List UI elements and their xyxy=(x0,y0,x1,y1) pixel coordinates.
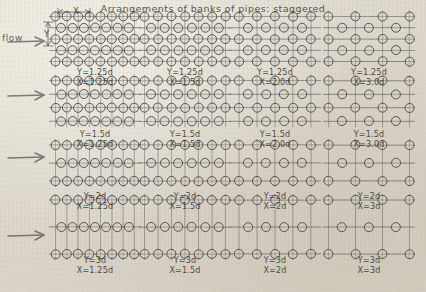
cell-x-value: X=3d xyxy=(318,202,420,212)
cell-x-value: X=1.25d xyxy=(44,202,146,212)
pipe-circle-icon xyxy=(243,90,252,99)
pipe-circle-icon xyxy=(243,46,252,55)
pipe-circle-icon xyxy=(201,158,210,167)
pipe-circle-icon xyxy=(351,177,360,186)
cell-caption: Y=1.25dX=2.0d xyxy=(224,68,326,87)
pipe-circle-icon xyxy=(214,46,223,55)
pipe-circle-icon xyxy=(124,23,133,32)
pipe-circle-icon xyxy=(51,177,60,186)
cell-y-value: Y=3d xyxy=(224,256,326,266)
pipe-circle-icon xyxy=(153,12,162,21)
pipe-circle-icon xyxy=(160,23,169,32)
pipe-circle-icon xyxy=(187,117,196,126)
pipe-circle-icon xyxy=(244,223,253,232)
pipe-circle-icon xyxy=(187,23,196,32)
pipe-circle-icon xyxy=(107,12,116,21)
pipe-circle-icon xyxy=(298,223,307,232)
pipe-circle-icon xyxy=(378,103,387,112)
pipe-circle-icon xyxy=(79,90,88,99)
pipe-circle-icon xyxy=(57,223,66,232)
pipe-circle-icon xyxy=(405,177,414,186)
pipe-circle-icon xyxy=(306,177,315,186)
pipe-circle-icon xyxy=(85,103,94,112)
flow-arrow-icon xyxy=(8,91,44,100)
pipe-circle-icon xyxy=(62,34,71,43)
cell-x-value: X=3d xyxy=(318,266,420,276)
pipe-circle-icon xyxy=(174,222,183,231)
cell-caption: Y=2dX=3d xyxy=(318,192,420,211)
pipe-circle-icon xyxy=(124,90,133,99)
pipe-bank-cell xyxy=(139,11,231,68)
pipe-circle-icon xyxy=(167,12,176,21)
cell-caption: Y=3dX=1.25d xyxy=(44,256,146,275)
pipe-circle-icon xyxy=(324,57,333,66)
pipe-circle-icon xyxy=(405,103,414,112)
pipe-circle-icon xyxy=(181,103,190,112)
pipe-circle-icon xyxy=(96,12,105,21)
pipe-circle-icon xyxy=(57,23,66,32)
pipe-circle-icon xyxy=(338,90,347,99)
pipe-circle-icon xyxy=(365,90,374,99)
pipe-circle-icon xyxy=(91,23,100,32)
cell-x-value: X=2.0d xyxy=(224,140,326,150)
pipe-circle-icon xyxy=(324,103,333,112)
pipe-circle-icon xyxy=(85,57,94,66)
pipe-circle-icon xyxy=(91,223,100,232)
cell-caption: Y=3dX=2d xyxy=(224,256,326,275)
pipe-circle-icon xyxy=(187,222,196,231)
cell-x-value: X=1.25d xyxy=(44,266,146,276)
pipe-circle-icon xyxy=(351,35,360,44)
pipe-circle-icon xyxy=(298,90,307,99)
pipe-circle-icon xyxy=(208,57,217,66)
pipe-circle-icon xyxy=(140,34,149,43)
cell-y-value: Y=2d xyxy=(44,192,146,202)
pipe-circle-icon xyxy=(297,158,306,167)
pipe-circle-icon xyxy=(102,117,111,126)
pipe-circle-icon xyxy=(324,176,333,185)
cell-x-value: X=1.25d xyxy=(44,78,146,88)
pipe-circle-icon xyxy=(297,46,306,55)
pipe-circle-icon xyxy=(124,46,133,55)
cell-y-value: Y=2d xyxy=(224,192,326,202)
pipe-circle-icon xyxy=(365,46,374,55)
cell-caption: Y=1.25dX=1.5d xyxy=(134,68,236,87)
cell-caption: Y=2dX=1.5d xyxy=(134,192,236,211)
pipe-circle-icon xyxy=(85,176,94,185)
pipe-circle-icon xyxy=(147,158,156,167)
pipe-circle-icon xyxy=(62,177,71,186)
pipe-circle-icon xyxy=(68,159,77,168)
pipe-circle-icon xyxy=(96,35,105,44)
pipe-circle-icon xyxy=(221,57,230,66)
pipe-circle-icon xyxy=(214,158,223,167)
pipe-circle-icon xyxy=(85,34,94,43)
pipe-circle-icon xyxy=(279,158,288,167)
cell-x-value: X=1.5d xyxy=(134,266,236,276)
pipe-circle-icon xyxy=(201,117,210,126)
pipe-circle-icon xyxy=(74,57,83,66)
pipe-circle-icon xyxy=(62,12,71,21)
pipe-circle-icon xyxy=(208,35,217,44)
pipe-circle-icon xyxy=(113,117,122,126)
pipe-circle-icon xyxy=(261,46,270,55)
cell-x-value: X=1.25d xyxy=(44,140,146,150)
pipe-circle-icon xyxy=(338,158,347,167)
pipe-circle-icon xyxy=(234,35,243,44)
pipe-circle-icon xyxy=(194,12,203,21)
pipe-circle-icon xyxy=(174,90,183,99)
pipe-circle-icon xyxy=(180,57,189,66)
pipe-circle-icon xyxy=(147,46,156,55)
pipe-circle-icon xyxy=(288,34,297,43)
pipe-circle-icon xyxy=(391,223,400,232)
pipe-circle-icon xyxy=(102,23,111,32)
pipe-circle-icon xyxy=(147,90,156,99)
pipe-circle-icon xyxy=(74,176,83,185)
pipe-circle-icon xyxy=(119,177,128,186)
pipe-circle-icon xyxy=(124,159,133,168)
pipe-circle-icon xyxy=(153,103,162,112)
pipe-circle-icon xyxy=(378,34,387,43)
pipe-circle-icon xyxy=(289,103,298,112)
pipe-circle-icon xyxy=(124,117,133,126)
pipe-circle-icon xyxy=(68,46,77,55)
pipe-circle-icon xyxy=(119,12,128,21)
pipe-circle-icon xyxy=(405,12,414,21)
